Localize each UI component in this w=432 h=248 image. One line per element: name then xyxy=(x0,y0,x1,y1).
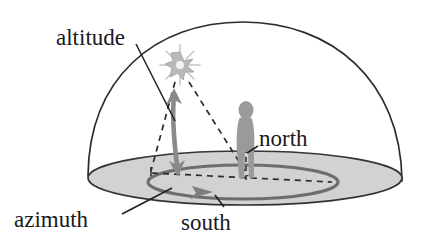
label-north: north xyxy=(259,127,308,150)
label-azimuth: azimuth xyxy=(14,208,88,231)
label-altitude: altitude xyxy=(56,26,125,49)
label-south: south xyxy=(181,211,231,234)
astronomy-diagram: altitude azimuth south north xyxy=(0,0,432,248)
altitude-leader-line xyxy=(136,44,175,121)
sun-icon xyxy=(160,45,200,85)
